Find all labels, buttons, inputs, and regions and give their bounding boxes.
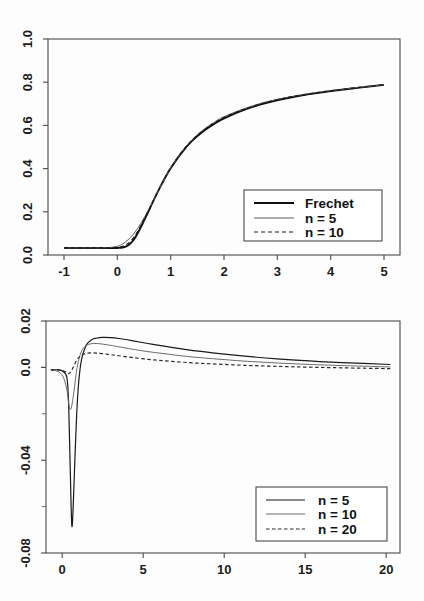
top-legend[interactable]: Frechet n = 5 n = 10 [244, 190, 382, 241]
top-ytick-0.4: 0.4 [20, 159, 35, 178]
top-legend-label-n10: n = 10 [305, 225, 344, 240]
top-ytick-0.0: 0.0 [20, 246, 35, 264]
top-xtick-3: 3 [274, 264, 281, 279]
top-legend-label-n5: n = 5 [305, 211, 337, 226]
top-chart-panel: 1.0 0.8 0.6 0.4 0.2 0.0 -1 0 [0, 0, 424, 300]
bottom-chart-panel: 0.02 0.0 -0.04 -0.08 0 5 10 15 20 [0, 300, 424, 601]
top-y-ticks [43, 39, 48, 255]
top-xtick-5: 5 [380, 264, 387, 279]
top-y-ticklabels: 1.0 0.8 0.6 0.4 0.2 0.0 [20, 30, 35, 264]
bottom-xtick-15: 15 [298, 562, 312, 577]
bottom-x-ticks [62, 553, 386, 558]
top-x-ticklabels: -1 0 1 2 3 4 5 [58, 264, 387, 279]
top-legend-label-frechet: Frechet [305, 196, 354, 211]
top-xtick-2: 2 [220, 264, 227, 279]
top-xtick--1: -1 [58, 264, 70, 279]
bottom-ytick-0.0: 0.0 [18, 358, 33, 376]
bottom-xtick-5: 5 [140, 562, 147, 577]
bottom-ytick-0.02: 0.02 [18, 308, 33, 333]
bottom-y-ticklabels: 0.02 0.0 -0.04 -0.08 [18, 308, 33, 567]
top-ytick-1.0: 1.0 [20, 30, 35, 48]
bottom-legend-label-n20: n = 20 [318, 522, 357, 537]
bottom-xtick-20: 20 [379, 562, 393, 577]
curve-n20 [51, 353, 390, 374]
top-ytick-0.2: 0.2 [20, 203, 35, 221]
top-ytick-0.6: 0.6 [20, 116, 35, 134]
top-xtick-0: 0 [114, 264, 121, 279]
top-xtick-4: 4 [327, 264, 335, 279]
top-ytick-0.8: 0.8 [20, 73, 35, 91]
bottom-y-ticks [41, 321, 46, 553]
top-x-ticks [64, 255, 384, 260]
bottom-ytick--0.08: -0.08 [18, 538, 33, 568]
bottom-x-ticklabels: 0 5 10 15 20 [59, 562, 394, 577]
top-xtick-1: 1 [167, 264, 174, 279]
bottom-ytick--0.04: -0.04 [18, 445, 33, 475]
bottom-xtick-0: 0 [59, 562, 66, 577]
bottom-chart-svg: 0.02 0.0 -0.04 -0.08 0 5 10 15 20 [0, 300, 424, 601]
bottom-xtick-10: 10 [217, 562, 231, 577]
figure-container: 1.0 0.8 0.6 0.4 0.2 0.0 -1 0 [0, 0, 424, 601]
bottom-legend-label-n10: n = 10 [318, 507, 357, 522]
bottom-legend-label-n5: n = 5 [318, 493, 350, 508]
bottom-legend[interactable]: n = 5 n = 10 n = 20 [256, 487, 387, 541]
top-chart-svg: 1.0 0.8 0.6 0.4 0.2 0.0 -1 0 [0, 0, 424, 300]
